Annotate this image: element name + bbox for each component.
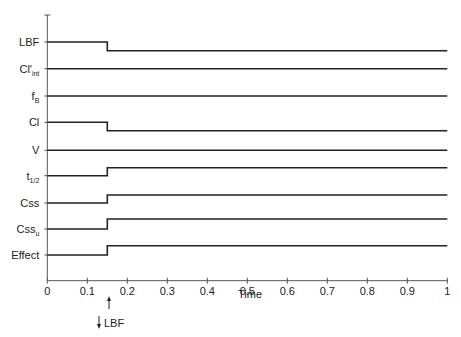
x-tick-label: 0.7 xyxy=(320,285,335,297)
event-annotation: LBF xyxy=(97,296,124,329)
x-tick-label: 0 xyxy=(44,285,50,297)
series-effect: Effect xyxy=(11,246,447,261)
x-tick-label: 1 xyxy=(444,285,450,297)
series-label: Effect xyxy=(11,249,39,261)
x-tick-label: 0.2 xyxy=(120,285,135,297)
series-v: V xyxy=(32,144,447,156)
series-label: Cl xyxy=(29,116,39,128)
down-arrow-head-icon xyxy=(97,324,101,329)
series-label: V xyxy=(32,144,40,156)
series-label: Cssu xyxy=(16,223,39,237)
series-css: Css xyxy=(20,195,447,209)
series-label: Cl′int xyxy=(19,63,39,77)
event-label: LBF xyxy=(104,317,124,329)
up-arrow-head-icon xyxy=(107,296,111,301)
x-tick-label: 0.6 xyxy=(280,285,295,297)
x-axis-label: Time xyxy=(238,288,262,300)
series-line xyxy=(47,246,447,255)
series-label: t1/2 xyxy=(27,170,40,184)
series-group: LBFCl′intfBClVt1/2CssCssuEffect xyxy=(11,36,447,261)
series-clint: Cl′int xyxy=(19,63,447,77)
step-chart: LBFCl′intfBClVt1/2CssCssuEffect 00.10.20… xyxy=(0,0,461,337)
series-line xyxy=(47,42,447,51)
x-tick-label: 0.8 xyxy=(360,285,375,297)
series-cssu: Cssu xyxy=(16,219,447,237)
series-lbf: LBF xyxy=(19,36,447,51)
x-tick-label: 0.3 xyxy=(160,285,175,297)
axes xyxy=(44,15,447,281)
series-label: Css xyxy=(20,197,39,209)
series-cl: Cl xyxy=(29,116,447,130)
series-t12: t1/2 xyxy=(27,168,448,184)
x-tick-label: 0.9 xyxy=(400,285,415,297)
series-line xyxy=(47,122,447,130)
series-line xyxy=(47,195,447,203)
series-line xyxy=(47,219,447,229)
series-label: fB xyxy=(32,90,40,104)
x-tick-label: 0.1 xyxy=(80,285,95,297)
series-label: LBF xyxy=(19,36,39,48)
x-tick-label: 0.4 xyxy=(200,285,215,297)
series-fb: fB xyxy=(32,90,448,104)
series-line xyxy=(47,168,447,176)
